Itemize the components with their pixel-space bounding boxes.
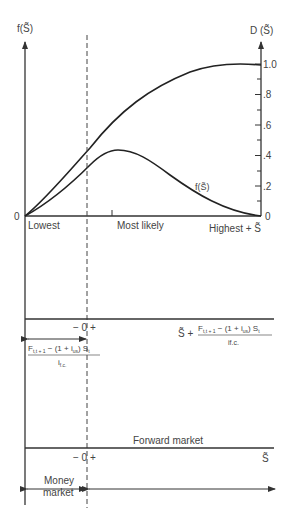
density-curve-label: f(S̃) (195, 182, 210, 192)
origin-left-label: 0 (14, 211, 20, 222)
money-market-line-section: − 0 + Ft,t + 1 − (1 + ius) St if.c. S̃ +… (25, 319, 274, 368)
right-formula-denominator: if.c. (228, 339, 239, 346)
left-formula-numerator: Ft,t + 1 − (1 + ius) St (28, 344, 90, 354)
left-axis-label: f(S̃) (17, 22, 33, 34)
tick-label-1-0: 1.0 (263, 59, 277, 70)
right-axis-ticks (255, 64, 261, 201)
tick-label-0-2: .2 (263, 181, 272, 192)
money-line-sign-label: − 0 + (73, 322, 96, 333)
x-label-lowest: Lowest (28, 220, 60, 231)
forward-money-market-diagram: f(S̃) 0 D (S̃) 1.0 .8 .6 .4 .2 0 Lowest … (0, 0, 290, 517)
right-formula-prefix: S̃ + (178, 327, 193, 339)
tick-label-0-6: .6 (263, 120, 272, 131)
market-region-arrows: Money market (27, 475, 275, 498)
tick-label-0-8: .8 (263, 89, 272, 100)
tick-label-0: 0 (265, 211, 271, 222)
probability-chart: f(S̃) 0 D (S̃) 1.0 .8 .6 .4 .2 0 Lowest … (14, 22, 277, 505)
tick-label-0-4: .4 (263, 150, 272, 161)
forward-line-sign-label: − 0 + (73, 452, 96, 463)
density-curve (25, 150, 261, 216)
money-market-label-line1: Money (44, 475, 74, 486)
cumulative-distribution-curve (25, 64, 261, 216)
right-axis-label: D (S̃) (250, 24, 273, 36)
right-formula-numerator: Ft,t + 1 − (1 + ius) St (198, 324, 260, 334)
x-label-most-likely: Most likely (117, 220, 164, 231)
x-label-highest: Highest + S̃ (209, 222, 261, 234)
forward-market-section: Forward market − 0 + S̃ (25, 435, 274, 464)
forward-market-label: Forward market (133, 435, 203, 446)
forward-axis-label: S̃ (262, 452, 269, 464)
left-formula-denominator: if.c. (58, 358, 66, 368)
